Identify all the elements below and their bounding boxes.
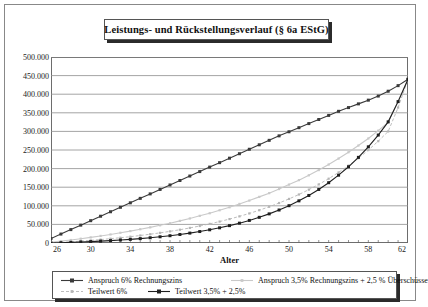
data-point-marker	[129, 238, 132, 241]
data-point-marker	[119, 239, 122, 242]
legend-item-1[interactable]: Anspruch 3,5% Rechnungszins + 2,5 % Über…	[231, 276, 428, 285]
data-point-marker	[278, 188, 280, 190]
data-point-marker	[337, 157, 339, 159]
x-axis-tick-label: 46	[245, 245, 253, 254]
data-point-marker	[179, 220, 181, 222]
data-point-marker	[59, 241, 62, 243]
x-axis-tick-label: 30	[87, 245, 95, 254]
x-axis-tick-label: 54	[325, 245, 333, 254]
data-point-marker	[178, 179, 181, 182]
data-point-marker	[367, 137, 369, 139]
data-point-marker	[298, 179, 300, 181]
y-axis-tick-label: 300.000	[5, 127, 49, 136]
data-point-marker	[238, 203, 240, 205]
data-point-marker	[297, 126, 300, 129]
data-point-marker	[367, 145, 370, 148]
data-point-marker	[288, 204, 291, 207]
data-point-marker	[208, 166, 211, 169]
data-point-marker	[169, 222, 171, 224]
data-point-marker	[179, 229, 181, 231]
data-point-marker	[367, 149, 369, 151]
data-point-marker	[189, 227, 191, 229]
data-point-marker	[169, 183, 172, 186]
data-point-marker	[387, 90, 390, 93]
data-point-marker	[307, 194, 310, 197]
data-point-marker	[228, 157, 231, 160]
data-point-marker	[109, 210, 112, 213]
data-point-marker	[149, 233, 151, 235]
data-point-marker	[308, 189, 310, 191]
data-point-marker	[317, 188, 320, 191]
data-point-marker	[278, 202, 280, 204]
y-axis-tick-label: 200.000	[5, 164, 49, 173]
series-0	[51, 78, 408, 240]
y-axis: 050.000100.000150.000200.000250.000300.0…	[5, 57, 49, 243]
data-point-marker	[337, 171, 339, 173]
x-axis-tick-label: 26	[53, 245, 61, 254]
data-point-marker	[159, 224, 161, 226]
data-point-marker	[149, 192, 152, 195]
data-point-marker	[189, 217, 191, 219]
data-point-marker	[238, 215, 240, 217]
data-point-marker	[377, 140, 379, 142]
data-point-marker	[149, 226, 151, 228]
data-point-marker	[357, 144, 359, 146]
data-point-marker	[387, 120, 390, 123]
data-point-marker	[318, 169, 320, 171]
legend-swatch-icon	[148, 287, 170, 296]
plot-wrapper	[51, 57, 408, 243]
data-point-marker	[238, 152, 241, 155]
legend-item-0[interactable]: Anspruch 6% Rechnungszins	[61, 276, 182, 285]
data-point-marker	[337, 174, 340, 177]
chart-canvas	[51, 57, 408, 243]
chart-frame: Leistungs- und Rückstellungsverlauf (§ 6…	[4, 4, 416, 301]
legend-swatch-icon	[61, 276, 83, 285]
data-point-marker	[99, 240, 102, 243]
x-axis-tick-label: 62	[398, 245, 406, 254]
data-point-marker	[318, 183, 320, 185]
y-axis-tick-label: 100.000	[5, 201, 49, 210]
legend-swatch-icon	[61, 287, 83, 296]
data-point-marker	[317, 118, 320, 121]
data-point-marker	[278, 134, 281, 137]
data-point-marker	[328, 178, 330, 180]
y-axis-tick-label: 0	[5, 239, 49, 248]
data-point-marker	[79, 241, 82, 244]
data-point-marker	[308, 174, 310, 176]
data-point-marker	[139, 237, 142, 240]
data-point-marker	[307, 122, 310, 125]
data-point-marker	[347, 165, 350, 168]
data-point-marker	[258, 196, 260, 198]
data-point-marker	[377, 130, 379, 132]
legend-item-2[interactable]: Teilwert 6%	[61, 287, 127, 296]
data-point-marker	[248, 219, 251, 222]
data-point-marker	[99, 215, 102, 218]
data-point-marker	[139, 197, 142, 200]
x-axis-tick-label: 38	[166, 245, 174, 254]
chart-title-box: Leistungs- und Rückstellungsverlauf (§ 6…	[104, 19, 329, 40]
data-point-marker	[199, 215, 201, 217]
data-point-marker	[218, 226, 221, 229]
data-point-marker	[327, 114, 330, 117]
data-point-marker	[298, 193, 300, 195]
x-axis-tick-label: 34	[126, 245, 134, 254]
legend-item-label: Anspruch 3,5% Rechnungszins + 2,5 % Über…	[258, 276, 428, 285]
y-axis-tick-label: 450.000	[5, 71, 49, 80]
data-point-marker	[248, 199, 250, 201]
legend-item-3[interactable]: Teilwert 3,5% + 2,5%	[148, 287, 245, 296]
data-point-marker	[51, 242, 53, 244]
data-point-marker	[209, 223, 211, 225]
data-point-marker	[188, 175, 191, 178]
data-point-marker	[129, 230, 131, 232]
data-point-marker	[328, 163, 330, 165]
data-point-marker	[169, 230, 171, 232]
data-point-marker	[139, 228, 141, 230]
data-point-marker	[228, 224, 231, 227]
data-point-marker	[397, 84, 400, 87]
data-point-marker	[258, 143, 261, 146]
data-point-marker	[288, 130, 291, 133]
data-point-marker	[129, 201, 132, 204]
data-point-marker	[347, 106, 350, 109]
data-point-marker	[69, 228, 72, 231]
y-axis-tick-label: 250.000	[5, 146, 49, 155]
